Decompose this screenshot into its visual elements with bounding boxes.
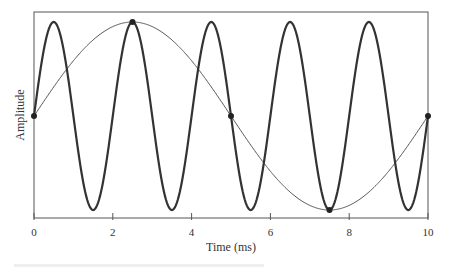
- x-tick-label: 4: [189, 226, 195, 238]
- x-tick-label: 10: [423, 226, 435, 238]
- sample-point-marker: [130, 19, 136, 25]
- x-tick-label: 8: [346, 226, 352, 238]
- sample-point-marker: [31, 113, 37, 119]
- sample-point-marker: [425, 113, 431, 119]
- x-tick-label: 6: [268, 226, 274, 238]
- sample-point-markers: [31, 19, 431, 213]
- waveform-chart: 0246810 Time (ms) Amplitude: [0, 0, 450, 269]
- y-axis-title: Amplitude: [13, 89, 27, 140]
- sample-point-marker: [327, 207, 333, 213]
- sample-point-marker: [228, 113, 234, 119]
- cropped-caption-line: [14, 264, 264, 267]
- x-axis-title: Time (ms): [206, 240, 256, 254]
- x-axis-ticks: 0246810: [31, 213, 434, 238]
- x-tick-label: 0: [31, 226, 37, 238]
- x-tick-label: 2: [110, 226, 116, 238]
